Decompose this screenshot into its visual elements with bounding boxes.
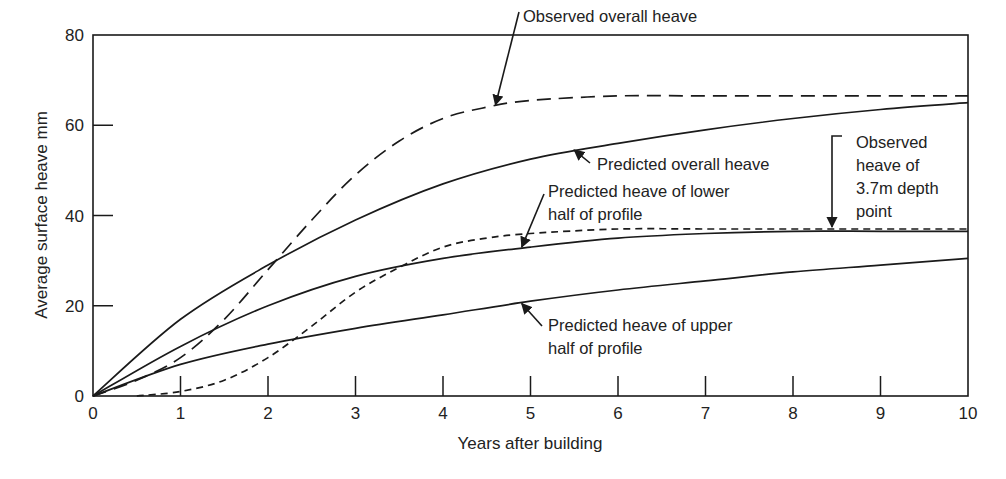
x-tick-label: 5	[526, 404, 535, 423]
y-axis-title: Average surface heave mm	[32, 111, 51, 319]
y-tick-label: 20	[65, 297, 84, 316]
annotation-text: Observed	[856, 133, 928, 151]
x-axis-title: Years after building	[458, 434, 603, 453]
annotation-5: Predicted heave of upperhalf of profile	[522, 303, 733, 357]
annotation-text: point	[856, 202, 892, 220]
series-layer	[93, 96, 968, 396]
annotation-arrow	[574, 150, 590, 163]
annotation-text: Observed overall heave	[523, 7, 697, 25]
annotation-text: heave of	[856, 156, 920, 174]
y-tick-label: 80	[65, 26, 84, 45]
annotation-text: 3.7m depth	[856, 179, 939, 197]
x-tick-label: 0	[88, 404, 97, 423]
annotation-4: Observedheave of3.7m depthpoint	[832, 133, 939, 227]
x-ticks: 012345678910	[88, 376, 977, 423]
x-tick-label: 7	[701, 404, 710, 423]
annotation-text: Predicted heave of lower	[548, 182, 730, 200]
annotation-text: Predicted overall heave	[597, 155, 769, 173]
x-tick-label: 8	[788, 404, 797, 423]
y-tick-label: 40	[65, 207, 84, 226]
annotation-arrow	[522, 194, 544, 247]
series-predicted-heave-of-upper-half-of-profile	[93, 258, 968, 396]
annotation-text: Predicted heave of upper	[548, 316, 733, 334]
series-observed-heave-of-3-7m-depth-point	[137, 229, 968, 396]
annotation-text: half of profile	[548, 339, 642, 357]
annotation-text: half of profile	[548, 205, 642, 223]
y-ticks: 020406080	[65, 26, 113, 406]
annotation-1: Observed overall heave	[496, 7, 698, 105]
y-tick-label: 0	[75, 387, 84, 406]
plot-frame	[93, 35, 968, 396]
x-tick-label: 6	[613, 404, 622, 423]
x-tick-label: 10	[959, 404, 978, 423]
annotation-2: Predicted overall heave	[574, 150, 769, 173]
x-tick-label: 4	[438, 404, 447, 423]
series-observed-overall-heave	[93, 96, 968, 396]
x-tick-label: 3	[351, 404, 360, 423]
y-tick-label: 60	[65, 116, 84, 135]
annotation-arrow	[832, 136, 842, 227]
series-predicted-overall-heave	[93, 103, 968, 396]
annotation-arrow	[522, 303, 542, 326]
annotations: Observed overall heavePredicted overall …	[496, 7, 939, 357]
annotation-arrow	[496, 12, 520, 105]
x-tick-label: 2	[263, 404, 272, 423]
x-tick-label: 1	[176, 404, 185, 423]
x-tick-label: 9	[876, 404, 885, 423]
heave-chart: 012345678910 020406080 Years after build…	[0, 0, 1006, 479]
